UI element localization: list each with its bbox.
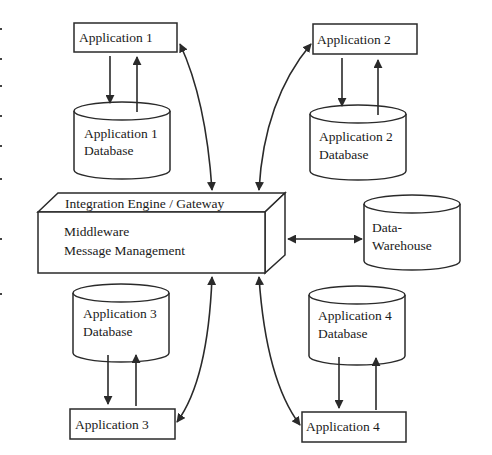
engine-line-1: Middleware — [64, 224, 129, 239]
svg-text:Database: Database — [84, 143, 133, 158]
application-1-box: Application 1 — [74, 23, 177, 52]
svg-text:Database: Database — [83, 324, 132, 339]
integration-engine: Integration Engine / Gateway Middleware … — [38, 193, 285, 273]
integration-diagram: Application 1 Application 2 Application … — [0, 0, 492, 455]
application-2-database: Application 2 Database — [310, 105, 406, 180]
application-2-label: Application 2 — [317, 32, 391, 47]
svg-text:Database: Database — [318, 326, 367, 341]
application-2-box: Application 2 — [313, 24, 417, 54]
svg-text:Application 3: Application 3 — [83, 306, 157, 321]
data-warehouse: Data- Warehouse — [364, 195, 460, 270]
svg-text:Application 2: Application 2 — [319, 129, 393, 144]
application-1-database: Application 1 Database — [74, 102, 170, 179]
svg-text:Warehouse: Warehouse — [372, 238, 432, 253]
svg-text:Application 4: Application 4 — [318, 308, 392, 323]
application-3-box: Application 3 — [70, 409, 175, 439]
engine-line-2: Message Management — [64, 243, 185, 258]
svg-text:Data-: Data- — [372, 220, 402, 235]
application-4-box: Application 4 — [302, 412, 406, 442]
application-3-database: Application 3 Database — [73, 284, 169, 362]
edge-marks — [0, 28, 2, 295]
engine-top-label: Integration Engine / Gateway — [65, 196, 225, 211]
application-1-label: Application 1 — [79, 30, 153, 45]
application-4-label: Application 4 — [306, 419, 380, 434]
svg-text:Application 1: Application 1 — [84, 126, 158, 141]
svg-text:Database: Database — [319, 147, 368, 162]
application-3-label: Application 3 — [75, 417, 149, 432]
application-4-database: Application 4 Database — [309, 286, 405, 365]
